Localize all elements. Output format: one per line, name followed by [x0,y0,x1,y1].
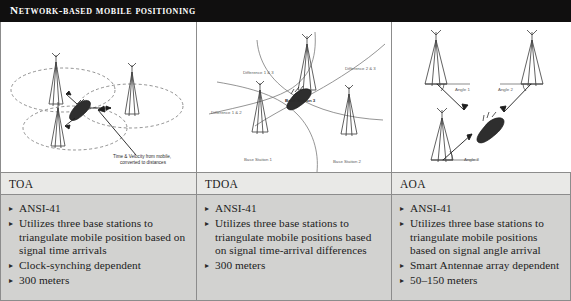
tower-glyph [521,30,543,86]
aoa-label-angle-3: Angle 3 [464,157,479,162]
table-header-toa-label: TOA [1,178,33,190]
tdoa-label-diff-1-2: Difference 1 & 2 [211,110,242,115]
list-item: ▸300 meters [8,274,190,288]
table-header-tdoa-label: TDOA [197,178,238,190]
list-item: ▸Utilizes three base stations to triangu… [399,217,566,258]
figure-title-bar: Network-based mobile positioning [0,0,571,22]
table-cell-toa: ▸ANSI-41 ▸Utilizes three base stations t… [1,195,196,300]
tdoa-label-base-station-2: Base Station 2 [333,159,362,164]
bullet-icon: ▸ [205,217,209,231]
aoa-feature-list: ▸ANSI-41 ▸Utilizes three base stations t… [399,202,566,288]
table-body-row: ▸ANSI-41 ▸Utilizes three base stations t… [0,195,571,301]
tower-glyph [341,85,357,136]
table-header-aoa: AOA [391,173,571,194]
bullet-icon: ▸ [9,259,13,273]
bullet-icon: ▸ [9,274,13,288]
toa-diagram: Time & Velocity from mobile, converted t… [1,22,196,172]
tdoa-label-diff-2-3: Difference 2 & 3 [345,66,376,71]
tdoa-label-base-station-3: Base Station 3 [285,98,316,103]
list-item: ▸300 meters [204,259,385,273]
bullet-icon: ▸ [400,202,404,216]
list-item-text: ANSI-41 [410,202,452,214]
list-item-text: 300 meters [19,274,69,286]
list-item-text: 50–150 meters [410,274,477,286]
table-header-tdoa: TDOA [196,173,391,194]
list-item: ▸Clock-synching dependent [8,259,190,273]
list-item-text: Smart Antennae array dependent [410,259,559,271]
aoa-diagram: Angle 1 Angle 2 [391,22,571,172]
list-item-text: Clock-synching dependent [19,259,141,271]
figure-title: Network-based mobile positioning [10,4,196,16]
mobile-handset-icon [70,99,91,120]
tdoa-label-base-station-1: Base Station 1 [244,157,273,162]
list-item: ▸ANSI-41 [204,202,385,216]
tdoa-feature-list: ▸ANSI-41 ▸Utilizes three base stations t… [204,202,385,273]
table-header-row: TOA TDOA AOA [0,172,571,195]
bullet-icon: ▸ [400,217,404,231]
comparison-table: TOA TDOA AOA ▸ANSI-41 ▸Utilizes three ba… [0,172,571,301]
tdoa-diagram: Difference 1 & 3 Difference 2 & 3 Differ… [196,22,392,172]
tower-glyph [49,53,63,106]
list-item: ▸Utilizes three base stations to triangu… [8,217,190,258]
list-item-text: ANSI-41 [215,202,257,214]
table-cell-tdoa: ▸ANSI-41 ▸Utilizes three base stations t… [196,195,391,300]
toa-caption-line1: Time & Velocity from mobile, [113,154,171,159]
list-item: ▸50–150 meters [399,274,566,288]
list-item: ▸ANSI-41 [8,202,190,216]
diagram-band: Time & Velocity from mobile, converted t… [0,22,571,172]
bullet-icon: ▸ [400,259,404,273]
bullet-icon: ▸ [400,274,404,288]
tower-glyph [125,63,139,116]
table-header-toa: TOA [1,173,196,194]
aoa-label-angle-2: Angle 2 [498,87,513,92]
tdoa-label-diff-1-3: Difference 1 & 3 [243,70,274,75]
list-item-text: Utilizes three base stations to triangul… [215,217,371,256]
tower-glyph [252,81,268,134]
list-item-text: Utilizes three base stations to triangul… [410,217,544,256]
list-item: ▸Smart Antennae array dependent [399,259,566,273]
bullet-icon: ▸ [9,217,13,231]
list-item: ▸Utilizes three base stations to triangu… [204,217,385,258]
list-item: ▸ANSI-41 [399,202,566,216]
list-item-text: 300 meters [215,259,265,271]
tower-glyph [298,34,316,92]
toa-caption-line2: converted to distances [120,160,167,165]
list-item-text: ANSI-41 [19,202,61,214]
table-cell-aoa: ▸ANSI-41 ▸Utilizes three base stations t… [391,195,571,300]
caption-pointer [98,106,136,155]
aoa-label-angle-1: Angle 1 [455,87,470,92]
bullet-icon: ▸ [205,202,209,216]
toa-feature-list: ▸ANSI-41 ▸Utilizes three base stations t… [8,202,190,288]
tower-glyph [425,30,447,86]
list-item-text: Utilizes three base stations to triangul… [19,217,185,256]
bullet-icon: ▸ [205,259,209,273]
bullet-icon: ▸ [9,202,13,216]
table-header-aoa-label: AOA [392,178,426,190]
figure-root: Network-based mobile positioning [0,0,571,301]
tower-glyph [51,102,65,148]
mobile-handset-icon [477,112,504,143]
